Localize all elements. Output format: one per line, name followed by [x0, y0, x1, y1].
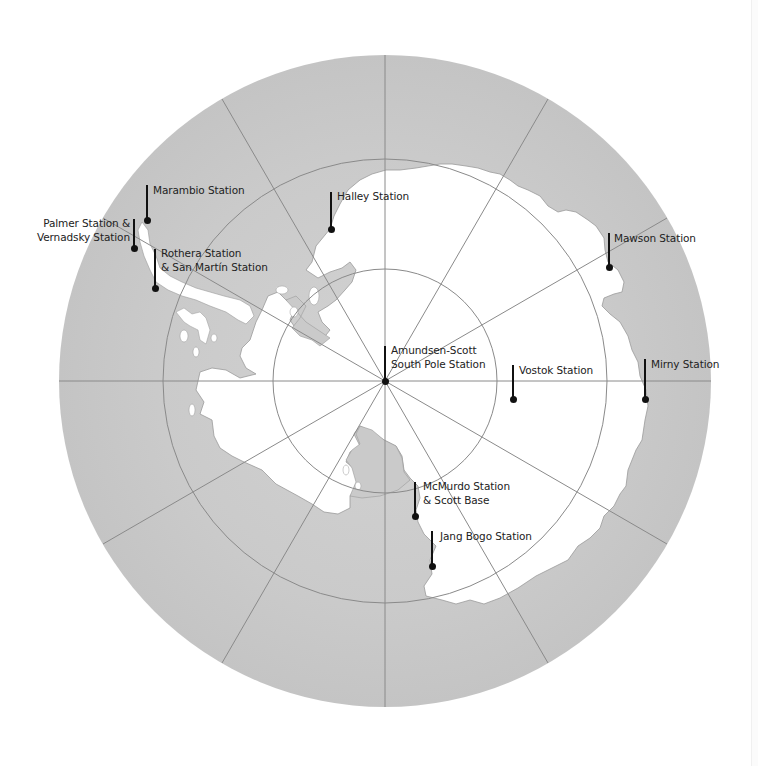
station-pin-line: [133, 219, 135, 248]
station-pin-line: [154, 249, 156, 288]
station-label-mirny: Mirny Station: [651, 357, 719, 371]
station-label-mcmurdo-scott: McMurdo Station & Scott Base: [423, 479, 510, 507]
station-marker-icon[interactable]: [382, 378, 389, 385]
station-label-rothera-san-martin: Rothera Station & San Martín Station: [161, 246, 268, 274]
station-marker-icon[interactable]: [131, 245, 138, 252]
station-label-vostok: Vostok Station: [519, 363, 593, 377]
station-pin-line: [644, 359, 646, 399]
station-marker-icon[interactable]: [328, 226, 335, 233]
station-label-halley: Halley Station: [337, 189, 409, 203]
station-pin-line: [384, 346, 386, 381]
station-pin-line: [512, 365, 514, 399]
station-label-jang-bogo: Jang Bogo Station: [440, 529, 532, 543]
station-pin-line: [146, 185, 148, 220]
station-marker-icon[interactable]: [642, 396, 649, 403]
station-pin-line: [414, 482, 416, 516]
station-pin-line: [330, 192, 332, 229]
station-label-palmer-vernadsky: Palmer Station & Vernadsky Station: [37, 216, 130, 244]
station-marker-icon[interactable]: [412, 513, 419, 520]
page-edge: [751, 0, 758, 766]
station-label-amundsen-scott: Amundsen-Scott South Pole Station: [391, 343, 485, 371]
station-marker-icon[interactable]: [429, 563, 436, 570]
station-marker-icon[interactable]: [606, 264, 613, 271]
station-label-mawson: Mawson Station: [614, 231, 696, 245]
station-marker-icon[interactable]: [152, 285, 159, 292]
station-label-marambio: Marambio Station: [153, 183, 245, 197]
station-pin-line: [608, 233, 610, 267]
station-pin-line: [431, 531, 433, 566]
station-marker-icon[interactable]: [510, 396, 517, 403]
station-marker-icon[interactable]: [144, 217, 151, 224]
